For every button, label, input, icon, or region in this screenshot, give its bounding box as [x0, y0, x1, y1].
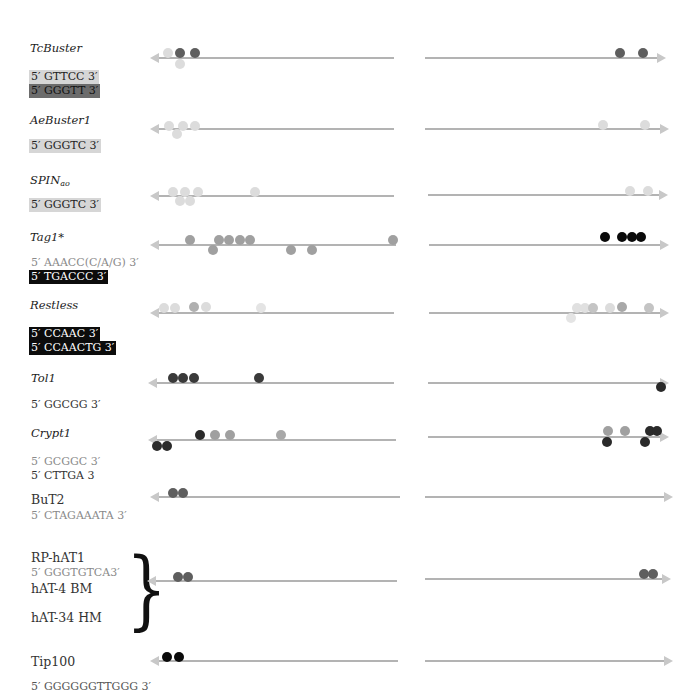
motif-dot: [640, 120, 650, 130]
motif-dot: [178, 488, 188, 498]
motif-rp-hat1-1: 5′ GGGTGTCA3′: [29, 566, 122, 580]
element-name-tcbuster: TcBuster: [30, 41, 82, 55]
arrow-left-icon: [150, 124, 159, 134]
motif-dot: [159, 303, 169, 313]
motif-tag1-1: 5′ AAACC(C/A/G) 3′: [29, 256, 141, 270]
element-name-hat-4-bm: hAT-4 BM: [31, 582, 92, 596]
element-name-tag1: Tag1*: [30, 230, 64, 244]
motif-dot: [643, 186, 653, 196]
element-name-hat-34-hm: hAT-34 HM: [31, 611, 102, 625]
element-name-crypt1: Crypt1: [31, 426, 71, 440]
motif-dot: [598, 120, 608, 130]
track-left-but2: [158, 496, 400, 498]
group-brace: }: [126, 546, 167, 632]
arrow-right-icon: [660, 432, 669, 442]
track-right-tcbuster: [425, 57, 658, 59]
track-right-rp-hat1: [425, 578, 663, 580]
track-left-tip100: [158, 660, 398, 662]
motif-dot: [175, 196, 185, 206]
motif-dot: [235, 235, 245, 245]
motif-crypt1-2: 5′ CTTGA 3: [29, 469, 97, 483]
element-name-rp-hat1: RP-hAT1: [31, 551, 85, 565]
motif-dot: [208, 245, 218, 255]
motif-restless-2: 5′ CCAACTG 3′: [29, 341, 116, 355]
arrow-left-icon: [150, 308, 159, 318]
motif-dot: [602, 437, 612, 447]
motif-dot: [307, 245, 317, 255]
motif-tag1-2: 5′ TGACCC 3′: [29, 270, 108, 284]
motif-dot: [163, 48, 173, 58]
motif-dot: [168, 488, 178, 498]
motif-dot: [173, 572, 183, 582]
motif-dot: [152, 441, 162, 451]
motif-dot: [193, 187, 203, 197]
motif-spin-1: 5′ GGGTC 3′: [29, 198, 101, 212]
motif-dot: [185, 196, 195, 206]
motif-dot: [638, 48, 648, 58]
motif-dot: [644, 303, 654, 313]
arrow-left-icon: [150, 191, 159, 201]
arrow-right-icon: [664, 656, 673, 666]
motif-dot: [250, 187, 260, 197]
motif-dot: [189, 373, 199, 383]
motif-tcbuster-1: 5′ GTTCC 3′: [29, 70, 99, 84]
track-right-spin: [428, 194, 660, 196]
element-name-tol1: Tol1: [31, 371, 56, 385]
arrow-right-icon: [660, 124, 669, 134]
arrow-right-icon: [660, 240, 669, 250]
motif-dot: [162, 441, 172, 451]
motif-dot: [648, 569, 658, 579]
motif-dot: [185, 235, 195, 245]
motif-dot: [617, 302, 627, 312]
motif-dot: [183, 572, 193, 582]
motif-tcbuster-2: 5′ GGGTT 3′: [29, 84, 100, 98]
arrow-right-icon: [662, 574, 671, 584]
motif-dot: [615, 48, 625, 58]
motif-dot: [625, 186, 635, 196]
motif-dot: [640, 437, 650, 447]
motif-dot: [245, 235, 255, 245]
motif-dot: [175, 59, 185, 69]
arrow-right-icon: [660, 308, 669, 318]
motif-dot: [636, 232, 646, 242]
motif-dot: [201, 302, 211, 312]
element-name-but2: BuT2: [31, 493, 65, 507]
motif-dot: [190, 121, 200, 131]
track-right-crypt1: [428, 436, 661, 438]
motif-dot: [276, 430, 286, 440]
motif-dot: [195, 430, 205, 440]
motif-dot: [620, 426, 630, 436]
motif-dot: [603, 426, 613, 436]
motif-dot: [210, 430, 220, 440]
track-left-crypt1: [156, 439, 396, 441]
track-right-tag1: [429, 244, 661, 246]
arrow-left-icon: [148, 378, 157, 388]
motif-dot: [190, 48, 200, 58]
motif-dot: [588, 303, 598, 313]
element-name-spin: SPINao: [30, 173, 70, 191]
motif-dot: [214, 235, 224, 245]
arrow-right-icon: [664, 492, 673, 502]
motif-aebuster1-1: 5′ GGGTC 3′: [29, 139, 101, 153]
track-right-restless: [429, 312, 661, 314]
motif-dot: [656, 382, 666, 392]
motif-dot: [600, 232, 610, 242]
element-name-aebuster1: AeBuster1: [30, 113, 91, 127]
motif-dot: [566, 313, 576, 323]
motif-dot: [388, 235, 398, 245]
motif-dot: [225, 430, 235, 440]
motif-dot: [189, 302, 199, 312]
motif-dot: [170, 303, 180, 313]
track-left-restless: [158, 312, 394, 314]
motif-dot: [652, 426, 662, 436]
track-right-tip100: [425, 660, 665, 662]
motif-dot: [286, 245, 296, 255]
motif-dot: [168, 187, 178, 197]
arrow-left-icon: [150, 53, 159, 63]
motif-dot: [605, 303, 615, 313]
arrow-left-icon: [150, 240, 159, 250]
motif-dot: [224, 235, 234, 245]
motif-crypt1-1: 5′ GCGGC 3′: [29, 455, 102, 469]
motif-restless-1: 5′ CCAAC 3′: [29, 327, 100, 341]
element-name-restless: Restless: [30, 298, 78, 312]
